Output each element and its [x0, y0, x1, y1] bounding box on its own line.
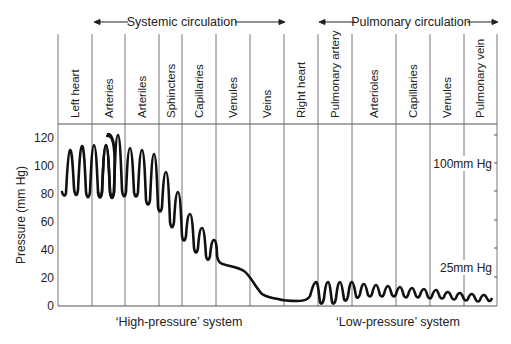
right-axis-ticks: [494, 135, 497, 277]
high-pressure-system-label: ‘High-pressure’ system: [116, 315, 243, 329]
y-tick-80: 80: [41, 187, 55, 201]
y-tick-100: 100: [34, 159, 54, 173]
column-label-sphincters: Sphincters: [165, 63, 177, 118]
column-label-capillaries: Capillaries: [193, 64, 205, 118]
column-label-arterioles: Arterioles: [368, 69, 380, 118]
y-tick-20: 20: [41, 271, 55, 285]
column-label-venules-pulmonary: Venules: [441, 77, 453, 118]
column-label-arteries: Arteries: [103, 78, 115, 118]
y-tick-60: 60: [41, 215, 55, 229]
column-label-arteriles: Arteriles: [136, 76, 148, 118]
y-tick-120: 120: [34, 131, 54, 145]
column-label-pulmonary-artery: Pulmonary artery: [329, 30, 341, 118]
column-label-venules: Venules: [227, 77, 239, 118]
reference-100mmhg-label: 100mm Hg: [433, 157, 492, 171]
y-axis-label: Pressure (mm Hg): [14, 166, 28, 264]
y-tick-0: 0: [47, 299, 54, 313]
pulmonary-circulation-label: Pulmonary circulation: [351, 15, 471, 29]
reference-25mmhg-label: 25mm Hg: [440, 261, 492, 275]
systemic-circulation-label: Systemic circulation: [127, 15, 237, 29]
circulation-pressure-diagram: Systemic circulation Pulmonary circulati…: [0, 0, 511, 344]
column-label-capillaries-pulmonary: Capillaries: [407, 64, 419, 118]
pressure-waveform-line: [62, 134, 115, 198]
column-gridlines: [58, 34, 497, 306]
y-tick-40: 40: [41, 243, 55, 257]
low-pressure-system-label: ‘Low-pressure’ system: [336, 315, 460, 329]
column-label-pulmonary-vein: Pulmonary vein: [474, 39, 486, 118]
column-label-left-heart: Left heart: [69, 69, 81, 118]
column-label-veins: Veins: [261, 90, 273, 118]
column-label-right-heart: Right heart: [295, 61, 307, 118]
